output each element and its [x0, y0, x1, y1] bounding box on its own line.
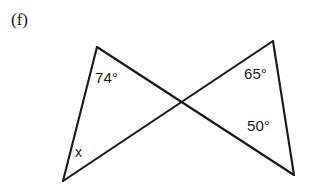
angle-label-bottom-right: 50° — [247, 118, 270, 133]
angle-label-top-left: 74° — [95, 70, 118, 85]
geometry-figure: (f) 74° 65° 50° x — [0, 0, 319, 195]
angle-label-top-right: 65° — [244, 66, 267, 81]
part-label: (f) — [11, 11, 28, 28]
figure-background — [0, 0, 319, 195]
angle-label-unknown-x: x — [75, 145, 82, 159]
triangles-drawing — [0, 0, 319, 195]
